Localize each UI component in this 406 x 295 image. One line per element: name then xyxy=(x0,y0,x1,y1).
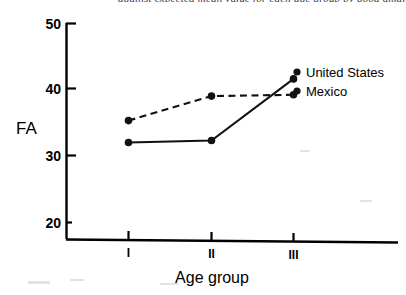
y-tick-label-30: 30 xyxy=(45,148,61,164)
data-point-united-states-III xyxy=(290,75,298,83)
legend-marker-united-states xyxy=(293,68,300,75)
y-tick-label-20: 20 xyxy=(45,215,61,231)
x-tick-label-I: I xyxy=(127,246,130,260)
line-chart-svg: 50 40 30 20 FA I II III Age group xyxy=(0,0,406,295)
x-axis-title: Age group xyxy=(175,269,249,286)
legend-label-united-states: United States xyxy=(306,65,385,80)
y-tick-label-40: 40 xyxy=(45,81,61,97)
data-point-united-states-II xyxy=(208,137,216,145)
series-line-united-states xyxy=(129,79,294,143)
x-tick-label-II: II xyxy=(208,247,215,261)
legend-marker-mexico xyxy=(293,87,300,94)
legend-label-mexico: Mexico xyxy=(306,84,347,99)
legend: United States Mexico xyxy=(293,65,384,99)
data-point-mexico-II xyxy=(208,92,216,100)
x-axis-line xyxy=(66,240,398,243)
figure-root: against expected mean value for each age… xyxy=(0,0,406,295)
scan-artifacts xyxy=(28,150,372,285)
y-axis-title: FA xyxy=(16,119,37,138)
series-markers-united-states xyxy=(125,75,298,146)
y-tick-label-50: 50 xyxy=(45,16,61,32)
data-point-united-states-I xyxy=(125,139,133,147)
data-point-mexico-I xyxy=(125,117,133,125)
x-tick-label-III: III xyxy=(288,248,298,262)
